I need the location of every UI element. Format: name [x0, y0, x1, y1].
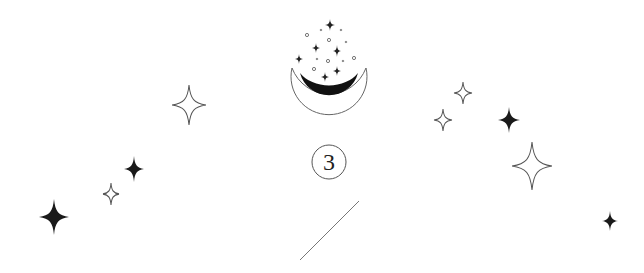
- outline-star-icon: [434, 109, 452, 131]
- outline-star-icon: [172, 85, 206, 125]
- filled-star-icon: [39, 199, 69, 235]
- filled-star-icon: [602, 211, 618, 231]
- filled-star-icon: [124, 156, 144, 182]
- celestial-illustration: [0, 0, 644, 273]
- cluster-dots: [305, 33, 355, 70]
- outline-star-icon: [103, 183, 119, 205]
- cluster-stars: [295, 19, 348, 82]
- outline-star-icon: [512, 142, 552, 190]
- moon-cluster: [291, 19, 367, 115]
- outline-star-icon: [454, 82, 472, 104]
- diagonal-line: [300, 201, 359, 260]
- crescent-moon-icon: [300, 73, 358, 95]
- number-label: 3: [312, 150, 346, 174]
- filled-star-icon: [498, 107, 520, 133]
